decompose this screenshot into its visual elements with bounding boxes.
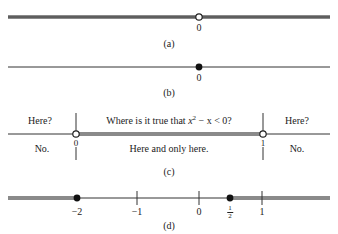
number-line-b xyxy=(8,64,330,71)
label-1: 1 xyxy=(261,137,266,149)
question-text: Where is it true that x2 − x < 0? xyxy=(106,115,232,127)
tick-label-minus-1: −1 xyxy=(132,206,143,218)
caption-b: (b) xyxy=(163,87,175,99)
tick-label-minus-2: −2 xyxy=(72,206,83,218)
open-point-0 xyxy=(196,14,202,20)
closed-point-0 xyxy=(196,64,203,71)
caption-a: (a) xyxy=(163,38,174,50)
middle-answer: Here and only here. xyxy=(130,143,209,155)
tick-label-1: 1 xyxy=(260,206,265,218)
caption-c: (c) xyxy=(163,166,174,178)
tick-label-0: 0 xyxy=(197,206,202,218)
left-answer: No. xyxy=(35,143,50,155)
caption-d: (d) xyxy=(163,220,175,232)
left-question: Here? xyxy=(28,115,52,127)
closed-point-minus-2 xyxy=(74,195,81,202)
label-0: 0 xyxy=(74,137,79,149)
closed-point-half xyxy=(227,195,234,202)
tick-label-half: 12 xyxy=(227,205,233,220)
number-line-a xyxy=(8,14,330,20)
number-line-d xyxy=(8,191,330,205)
label-0: 0 xyxy=(197,22,202,34)
right-question: Here? xyxy=(285,115,309,127)
label-0: 0 xyxy=(197,72,202,84)
right-answer: No. xyxy=(290,143,305,155)
